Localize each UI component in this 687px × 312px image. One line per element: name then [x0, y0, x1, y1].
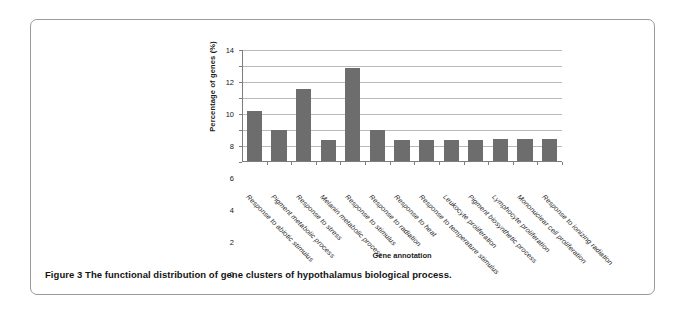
- y-tick-mark: 2: [239, 146, 242, 147]
- bar: [370, 130, 385, 161]
- bar: [468, 140, 483, 161]
- y-tick-mark: 0: [239, 162, 242, 163]
- y-tick-label: 4: [230, 206, 234, 215]
- x-tick-mark: [513, 162, 514, 165]
- x-tick-mark: [414, 162, 415, 165]
- y-tick-label: 8: [230, 142, 234, 151]
- y-tick-mark: 8: [239, 98, 242, 99]
- x-tick-mark: [267, 162, 268, 165]
- gridline: [242, 82, 562, 83]
- bar: [493, 139, 508, 161]
- bar: [394, 140, 409, 161]
- figure-caption: Figure 3 The functional distribution of …: [45, 269, 645, 280]
- figure-frame: Percentage of genes (%) 02468101214 Resp…: [30, 19, 655, 295]
- x-tick-mark: [291, 162, 292, 165]
- x-tick-mark: [340, 162, 341, 165]
- y-axis-line: [242, 50, 243, 162]
- gridline: [242, 66, 562, 67]
- x-axis-label: Response to heat: [393, 193, 438, 238]
- gridline: [242, 130, 562, 131]
- y-tick-mark: 10: [239, 82, 242, 83]
- bar: [247, 111, 262, 161]
- x-tick-mark: [439, 162, 440, 165]
- bar: [345, 68, 360, 161]
- bar: [542, 139, 557, 161]
- y-tick-label: 6: [230, 174, 234, 183]
- x-tick-mark: [316, 162, 317, 165]
- gridline: [242, 98, 562, 99]
- plot-area: 02468101214 Response to abiotic stimulus…: [242, 50, 562, 162]
- gridline: [242, 50, 562, 51]
- y-tick-mark: 12: [239, 66, 242, 67]
- y-tick-label: 10: [226, 110, 234, 119]
- y-tick-label: 2: [230, 238, 234, 247]
- x-axis-title: Gene annotation: [242, 251, 562, 260]
- y-tick-mark: 6: [239, 114, 242, 115]
- y-tick-mark: 14: [239, 50, 242, 51]
- y-tick-label: 12: [226, 78, 234, 87]
- x-tick-mark: [488, 162, 489, 165]
- bar: [419, 140, 434, 161]
- bar: [517, 139, 532, 161]
- bar: [296, 89, 311, 161]
- bar: [271, 130, 286, 161]
- x-tick-mark: [390, 162, 391, 165]
- y-tick-label: 14: [226, 46, 234, 55]
- gridline: [242, 114, 562, 115]
- bar: [321, 140, 336, 161]
- x-tick-mark: [464, 162, 465, 165]
- bar: [444, 140, 459, 161]
- y-axis-title: Percentage of genes (%): [208, 0, 217, 237]
- x-tick-mark: [365, 162, 366, 165]
- x-axis-line: [242, 161, 562, 162]
- x-tick-mark: [537, 162, 538, 165]
- bar-chart: Percentage of genes (%) 02468101214 Resp…: [199, 25, 599, 265]
- y-tick-mark: 4: [239, 130, 242, 131]
- x-tick-mark: [562, 162, 563, 165]
- x-axis-label: Response to stress: [295, 193, 344, 242]
